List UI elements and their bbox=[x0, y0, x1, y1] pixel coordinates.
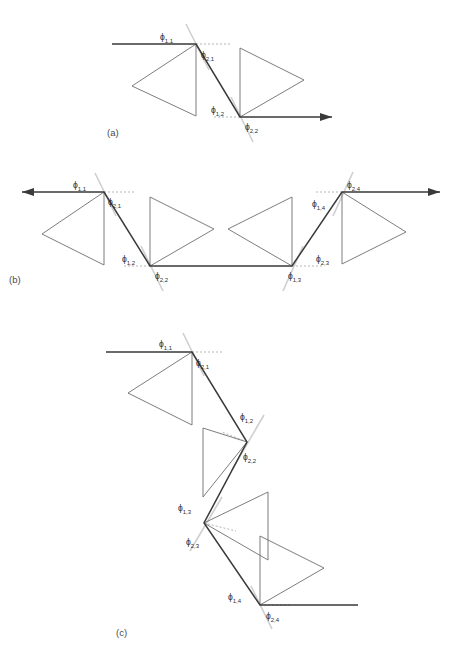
ray-path bbox=[112, 44, 332, 117]
angle-label-2-4: ϕ2,4 bbox=[347, 180, 361, 192]
angle-label-1-2: ϕ1,2 bbox=[211, 105, 225, 117]
angle-sequence-figure: ϕ1,1ϕ2,1ϕ1,2ϕ2,2(a)ϕ1,1ϕ2,1ϕ1,2ϕ2,2ϕ1,3ϕ… bbox=[0, 0, 453, 651]
guide-line-3 bbox=[283, 246, 303, 291]
triangle-1 bbox=[128, 352, 192, 425]
angle-label-2-2: ϕ2,2 bbox=[243, 452, 257, 464]
panels-root: ϕ1,1ϕ2,1ϕ1,2ϕ2,2(a)ϕ1,1ϕ2,1ϕ1,2ϕ2,2ϕ1,3ϕ… bbox=[9, 24, 440, 638]
angle-label-1-4: ϕ1,4 bbox=[228, 592, 242, 604]
angle-label-2-3: ϕ2,3 bbox=[316, 254, 330, 266]
guide-line-4 bbox=[333, 172, 353, 216]
angle-label-2-2: ϕ2,2 bbox=[245, 122, 259, 134]
angle-label-1-2: ϕ1,2 bbox=[240, 412, 254, 424]
triangle-2 bbox=[150, 197, 214, 266]
angle-label-1-1: ϕ1,1 bbox=[159, 339, 173, 351]
panel-caption-b: (b) bbox=[9, 274, 21, 285]
triangle-4 bbox=[260, 536, 324, 605]
angle-label-1-3: ϕ1,3 bbox=[288, 271, 302, 283]
angle-label-2-1: ϕ2,1 bbox=[196, 358, 210, 370]
angle-label-1-1: ϕ1,1 bbox=[73, 180, 87, 192]
triangle-1 bbox=[42, 192, 104, 265]
panel-caption-c: (c) bbox=[116, 627, 127, 638]
ray-path bbox=[106, 352, 358, 605]
triangle-3 bbox=[228, 197, 292, 266]
guide-line-4 bbox=[251, 586, 272, 629]
triangle-4 bbox=[342, 192, 406, 264]
angle-label-1-1: ϕ1,1 bbox=[160, 32, 174, 44]
triangle-2 bbox=[203, 428, 247, 497]
angle-label-1-3: ϕ1,3 bbox=[178, 503, 192, 515]
guide-line-2 bbox=[141, 246, 163, 291]
angle-label-1-4: ϕ1,4 bbox=[312, 199, 326, 211]
panel-b: ϕ1,1ϕ2,1ϕ1,2ϕ2,2ϕ1,3ϕ2,3ϕ1,4ϕ2,4(b) bbox=[9, 172, 440, 291]
guide-line-2 bbox=[231, 97, 253, 142]
panel-a: ϕ1,1ϕ2,1ϕ1,2ϕ2,2(a) bbox=[107, 24, 332, 142]
triangle-2 bbox=[240, 48, 304, 117]
panel-c: ϕ1,1ϕ2,1ϕ1,2ϕ2,2ϕ1,3ϕ2,3ϕ1,4ϕ2,4(c) bbox=[106, 333, 358, 638]
panel-caption-a: (a) bbox=[107, 127, 119, 138]
angle-label-1-2: ϕ1,2 bbox=[122, 254, 136, 266]
angle-label-2-4: ϕ2,4 bbox=[266, 611, 280, 623]
triangle-3 bbox=[204, 492, 268, 560]
angle-label-2-2: ϕ2,2 bbox=[155, 271, 169, 283]
triangle-1 bbox=[132, 44, 196, 116]
angle-label-2-1: ϕ2,1 bbox=[201, 50, 215, 62]
angle-label-2-1: ϕ2,1 bbox=[108, 197, 122, 209]
